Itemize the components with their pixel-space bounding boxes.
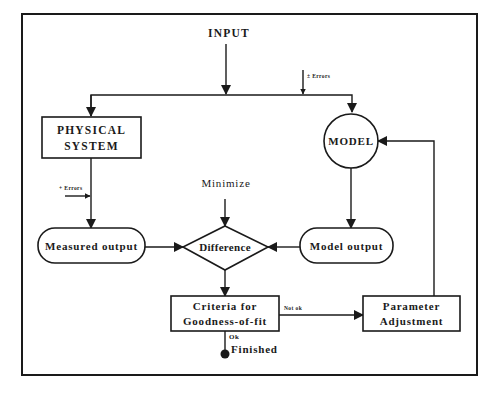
- model-output-node: Model output: [300, 228, 393, 263]
- parameter-adjustment-line1: Parameter: [383, 300, 440, 312]
- criteria-line2: Goodness-of-fit: [183, 315, 267, 327]
- parameter-adjustment-line2: Adjustment: [380, 315, 444, 327]
- model-output-label: Model output: [310, 240, 383, 252]
- measured-output-node: Measured output: [38, 228, 145, 263]
- minimize-label: Minimize: [201, 177, 250, 189]
- parameter-adjustment-node: Parameter Adjustment: [363, 296, 460, 331]
- physical-system-line2: SYSTEM: [64, 140, 119, 152]
- notok-label: Not ok: [284, 305, 303, 311]
- model-node: MODEL: [324, 114, 378, 168]
- finished-terminal-icon: [221, 350, 230, 359]
- ok-label: Ok: [229, 333, 239, 341]
- difference-label: Difference: [199, 241, 251, 253]
- difference-node: Difference: [183, 226, 268, 270]
- criteria-node: Criteria for Goodness-of-fit: [171, 296, 279, 331]
- finished-label: Finished: [231, 343, 278, 355]
- measured-output-label: Measured output: [45, 240, 138, 252]
- errors-measured-label: + Errors: [59, 185, 83, 191]
- flowchart-canvas: INPUT ± Errors PHYSICAL SYSTEM MODEL + E…: [0, 0, 489, 398]
- model-label: MODEL: [328, 135, 374, 147]
- input-label: INPUT: [208, 27, 250, 39]
- feedback-arrow: [378, 141, 434, 296]
- split-line: [91, 95, 352, 116]
- criteria-line1: Criteria for: [193, 300, 257, 312]
- physical-system-line1: PHYSICAL: [57, 124, 126, 136]
- errors-model-label: ± Errors: [307, 73, 330, 79]
- physical-system-node: PHYSICAL SYSTEM: [42, 117, 141, 158]
